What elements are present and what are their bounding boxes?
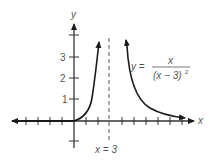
svg-text:(x − 3): (x − 3)	[153, 70, 182, 81]
asymptote-label: x = 3	[94, 144, 117, 155]
y-tick-label-3: 3	[60, 52, 66, 63]
y-tick-label-1: 1	[62, 94, 68, 105]
y-axis	[69, 24, 79, 148]
y-axis-label: y	[70, 9, 77, 20]
curve-right-branch	[127, 46, 185, 118]
svg-text:2: 2	[185, 69, 189, 75]
x-axis-label: x	[197, 115, 204, 126]
graph: y x 3 2 1 x = 3 y = x (x − 3) 2	[0, 0, 210, 163]
curve-left-branch-rise	[74, 42, 99, 121]
function-label: y = x (x − 3) 2	[130, 55, 190, 81]
y-tick-label-2: 2	[60, 73, 66, 84]
svg-text:x: x	[167, 55, 174, 66]
svg-text:y =: y =	[130, 61, 145, 72]
